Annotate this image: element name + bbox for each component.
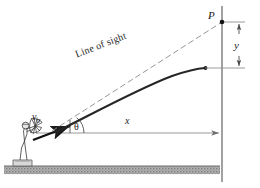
label-vertical-drop-y: y xyxy=(234,40,239,51)
ground-hatch xyxy=(4,166,220,174)
target-point-p xyxy=(220,20,225,25)
projectile-motion-figure: P y x v0 θ Line of sight xyxy=(0,0,260,188)
velocity-subscript: 0 xyxy=(36,117,40,125)
label-launch-angle-theta: θ xyxy=(74,122,79,132)
figure-canvas xyxy=(0,0,260,188)
label-horizontal-range-x: x xyxy=(125,116,129,126)
sight-line xyxy=(52,22,222,131)
label-point-p: P xyxy=(208,10,215,21)
label-initial-velocity: v0 xyxy=(32,112,40,125)
